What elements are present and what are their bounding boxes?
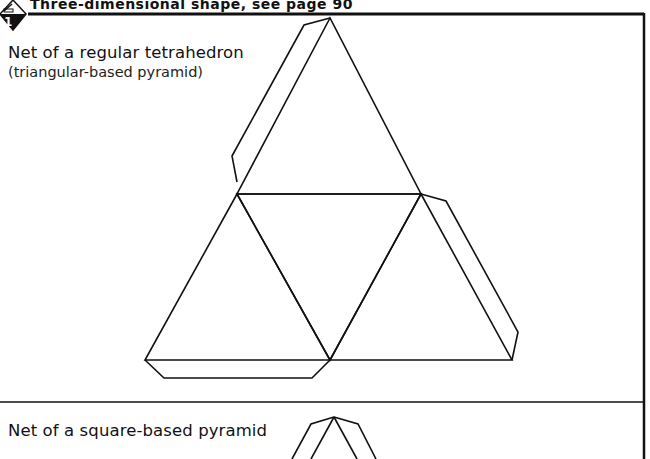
square-pyramid-net	[292, 417, 376, 459]
section-title-tetrahedron: Net of a regular tetrahedron	[8, 43, 244, 62]
net-face-center	[237, 194, 421, 360]
glue-tab-bottom	[145, 360, 330, 378]
glue-tab-left	[292, 417, 334, 459]
activity-badge: 1	[0, 0, 28, 40]
net-face-top	[237, 18, 421, 194]
badge-number: 1	[4, 15, 12, 29]
net-face-right	[330, 194, 512, 360]
net-face-left	[145, 194, 330, 360]
glue-tab-top	[232, 18, 330, 182]
header-title: Three-dimensional shape, see page 90	[30, 0, 353, 12]
glue-tab-right	[334, 417, 376, 459]
section-subtitle-tetrahedron: (triangular-based pyramid)	[8, 64, 203, 80]
section-title-square-pyramid: Net of a square-based pyramid	[8, 421, 267, 440]
